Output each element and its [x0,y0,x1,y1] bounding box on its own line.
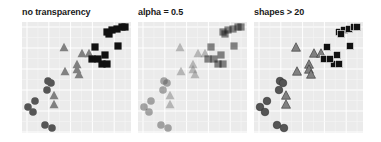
circle-point [279,79,287,87]
triangle-point [176,43,185,52]
scatter-plot [138,22,247,133]
square-point [326,55,333,62]
square-point [219,60,226,67]
square-point [210,55,217,62]
square-point [346,42,353,49]
circle-point [47,79,55,87]
scatter-plot [254,22,363,133]
circle-point [275,86,283,94]
triangle-point [60,43,69,52]
circle-point [29,108,37,116]
plot-area [254,22,363,133]
square-point [114,42,121,49]
triangle-point [78,49,87,58]
triangle-point [50,100,59,109]
square-point [237,23,244,30]
circle-point [157,121,165,129]
square-point [337,30,344,37]
circle-point [43,86,51,94]
square-point [335,60,342,67]
triangle-point [50,91,59,100]
triangle-point [177,67,186,76]
square-point [353,23,360,30]
triangle-point [194,49,203,58]
square-point [221,30,228,37]
triangle-point [293,67,302,76]
square-point [103,60,110,67]
plot-area [22,22,131,133]
panel-title: no transparency [22,7,91,17]
triangle-point [166,100,175,109]
square-point [91,43,98,50]
scatter-plot [22,22,131,133]
square-point [105,30,112,37]
circle-point [147,97,155,105]
square-point [333,51,340,58]
square-point [207,43,214,50]
circle-point [163,79,171,87]
square-point [101,51,108,58]
triangle-point [166,91,175,100]
square-point [94,55,101,62]
circle-point [31,97,39,105]
plot-area [138,22,247,133]
square-point [121,23,128,30]
circle-point [263,97,271,105]
circle-point [164,124,172,132]
square-point [230,42,237,49]
triangle-point [292,43,301,52]
circle-point [41,121,49,129]
circle-point [145,108,153,116]
square-point [217,51,224,58]
square-point [323,43,330,50]
panel-title: alpha = 0.5 [138,7,183,17]
panel-title: shapes > 20 [254,7,304,17]
circle-point [273,121,281,129]
triangle-point [282,100,291,109]
triangle-point [61,67,70,76]
circle-point [159,86,167,94]
circle-point [48,124,56,132]
circle-point [280,124,288,132]
circle-point [261,108,269,116]
triangle-point [282,91,291,100]
